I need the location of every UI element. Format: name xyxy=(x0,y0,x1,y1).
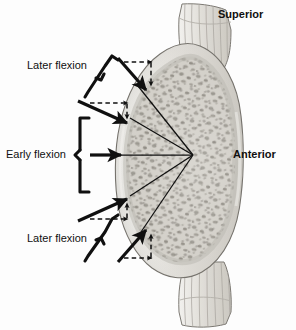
bracket-later-flexion-bottom xyxy=(85,215,118,261)
force-vector-upper-outer xyxy=(118,58,146,90)
force-vector-upper-inner xyxy=(78,101,127,123)
vector-overlay-layer xyxy=(0,0,296,330)
bracket-later-flexion-top xyxy=(85,56,118,97)
convergence-rays xyxy=(118,86,193,232)
figure-canvas: Superior Anterior Later flexion Early fl… xyxy=(0,0,296,330)
annotation-early-flexion: Early flexion xyxy=(6,148,66,160)
ray-lower-inner xyxy=(130,155,193,196)
annotation-later-flexion-bottom: Later flexion xyxy=(27,232,87,244)
orientation-label-superior: Superior xyxy=(218,8,263,20)
force-vector-lower-outer xyxy=(118,230,146,262)
annotation-later-flexion-top: Later flexion xyxy=(27,59,87,71)
ray-upper-outer xyxy=(138,86,193,155)
ray-lower-outer xyxy=(141,155,193,232)
force-vector-lower-inner xyxy=(78,199,127,221)
orientation-label-anterior: Anterior xyxy=(233,148,276,160)
bracket-early-flexion xyxy=(75,118,89,192)
ray-upper-inner xyxy=(130,118,193,155)
